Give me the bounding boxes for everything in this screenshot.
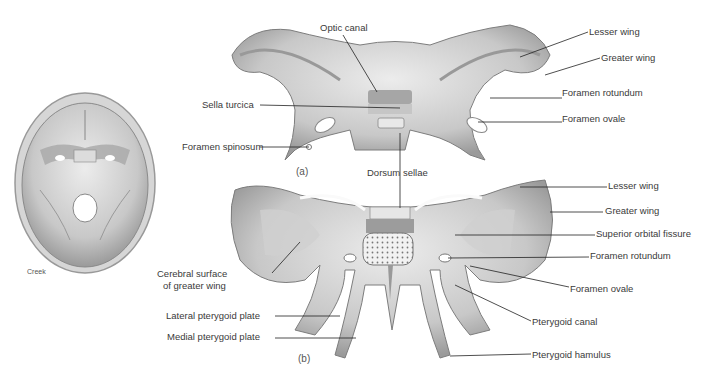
label-foramen-ovale-b: Foramen ovale: [570, 284, 633, 294]
sphenoid-bone-figure: Creek Optic canal Sella turcica Foramen …: [0, 0, 717, 382]
label-optic-canal: Optic canal: [320, 23, 368, 33]
artist-credit: Creek: [27, 268, 46, 275]
label-foramen-rotundum-a: Foramen rotundum: [562, 88, 643, 98]
label-greater-wing-a: Greater wing: [601, 53, 655, 63]
label-sella-turcica: Sella turcica: [202, 100, 254, 110]
sphenoid-posterior-view: [231, 180, 553, 358]
sphenoid-superior-view: [232, 25, 550, 160]
label-pterygoid-canal: Pterygoid canal: [532, 317, 597, 327]
label-lateral-pterygoid-plate: Lateral pterygoid plate: [166, 311, 260, 321]
label-medial-pterygoid-plate: Medial pterygoid plate: [167, 332, 260, 342]
panel-a-marker: (a): [296, 167, 308, 177]
label-pterygoid-hamulus: Pterygoid hamulus: [532, 350, 611, 360]
label-foramen-spinosum: Foramen spinosum: [182, 142, 263, 152]
label-foramen-ovale-a: Foramen ovale: [562, 114, 625, 124]
label-dorsum-sellae: Dorsum sellae: [367, 168, 428, 178]
label-lesser-wing-a: Lesser wing: [589, 27, 640, 37]
skull-base-inset: [15, 93, 155, 273]
label-foramen-rotundum-b: Foramen rotundum: [590, 251, 671, 261]
label-cerebral-surface-line2: of greater wing: [163, 281, 226, 291]
label-greater-wing-b: Greater wing: [605, 206, 659, 216]
label-cerebral-surface-line1: Cerebral surface: [157, 269, 227, 279]
label-lesser-wing-b: Lesser wing: [608, 181, 659, 191]
panel-b-marker: (b): [298, 354, 310, 364]
label-superior-orbital-fissure: Superior orbital fissure: [596, 229, 691, 239]
